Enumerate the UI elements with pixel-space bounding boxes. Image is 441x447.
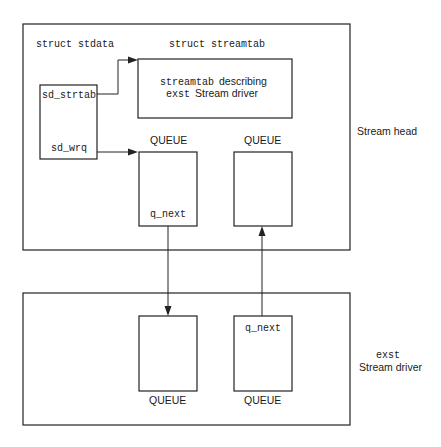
arrowhead-icon — [259, 226, 266, 236]
streamtab-title: struct streamtab — [169, 39, 265, 50]
head-queue2-label: QUEUE — [244, 134, 281, 146]
stdata-title: struct stdata — [36, 39, 114, 50]
head-queue2-box — [234, 152, 292, 226]
sd-strtab-field: sd_strtab — [42, 90, 96, 101]
driver-queue2-qnext: q_next — [245, 323, 281, 334]
driver-box — [23, 293, 350, 425]
sd-wrq-field: sd_wrq — [51, 143, 87, 154]
stream-head-label: Stream head — [357, 125, 417, 137]
streams-diagram: struct stdata struct streamtab sd_strtab… — [0, 0, 441, 447]
strtab-arrow — [97, 60, 130, 94]
head-queue1-label: QUEUE — [150, 134, 187, 146]
streamtab-desc-line2: exstStream driver — [166, 87, 259, 100]
arrowhead-icon — [128, 149, 138, 156]
driver-queue2-label: QUEUE — [244, 394, 281, 406]
driver-label-line2: Stream driver — [359, 361, 423, 373]
head-queue1-qnext: q_next — [150, 209, 186, 220]
arrowhead-icon — [128, 57, 138, 64]
arrowhead-icon — [165, 306, 172, 316]
driver-queue1-label: QUEUE — [149, 394, 186, 406]
driver-queue1-box — [139, 316, 197, 391]
driver-label-line1: exst — [376, 350, 400, 361]
